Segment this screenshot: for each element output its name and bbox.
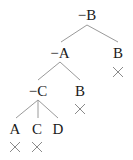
cross-icon <box>113 67 123 77</box>
cross-icon <box>75 104 85 114</box>
edge-root-n2 <box>87 25 118 42</box>
node-n2-label: B <box>113 45 123 61</box>
node-n7-label: D <box>53 121 64 137</box>
edge-n3-n5 <box>16 100 38 118</box>
cross-icon <box>10 142 20 152</box>
node-n5-label: A <box>10 121 21 137</box>
node-n4-label: B <box>75 83 85 99</box>
edge-n3-n7 <box>38 100 58 118</box>
node-n6-label: C <box>32 121 42 137</box>
edge-n1-n4 <box>60 62 80 80</box>
edge-root-n1 <box>61 25 87 42</box>
node-n1-label: −A <box>50 45 69 61</box>
cross-icon <box>32 142 42 152</box>
edge-n1-n3 <box>38 62 60 80</box>
node-n3-label: −C <box>29 83 47 99</box>
node-root-label: −B <box>78 7 96 23</box>
tree-diagram: −B −A B −C B A C D <box>0 0 133 160</box>
